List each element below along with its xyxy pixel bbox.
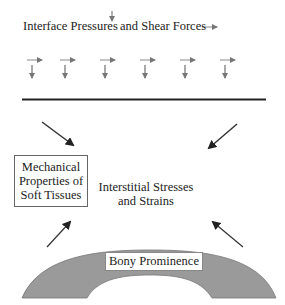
interstitial-line-2: and Strains — [96, 194, 196, 208]
mechanical-line-2: Properties of — [19, 174, 83, 188]
force-pair-5 — [180, 60, 195, 78]
arrow-bottom-left — [47, 222, 70, 247]
force-pair-4 — [140, 60, 155, 78]
force-pair-2 — [60, 60, 75, 78]
arrow-top-right — [209, 124, 237, 148]
bony-prominence-label: Bony Prominence — [105, 252, 203, 271]
force-pair-1 — [27, 60, 42, 78]
header-interface-pressures: Interface Pressures — [23, 19, 118, 33]
header-shear-forces: and Shear Forces — [120, 19, 206, 33]
mechanical-properties-box: Mechanical Properties of Soft Tissues — [14, 155, 88, 207]
interstitial-stresses-label: Interstitial Stresses and Strains — [96, 180, 196, 208]
mechanical-line-3: Soft Tissues — [21, 188, 82, 202]
force-pair-3 — [100, 60, 115, 78]
arrow-top-left — [42, 122, 73, 145]
interstitial-line-1: Interstitial Stresses — [96, 180, 196, 194]
force-arrows — [27, 60, 235, 78]
force-pair-6 — [220, 60, 235, 78]
mechanical-line-1: Mechanical — [22, 160, 80, 174]
arrow-bottom-right — [213, 222, 243, 247]
